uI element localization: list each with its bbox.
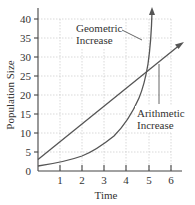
geometric-annotation: Geometric Increase xyxy=(73,21,142,48)
y-tick-0: 0 xyxy=(26,165,32,177)
x-tick-3: 3 xyxy=(101,174,107,186)
arithmetic-label-line2: Increase xyxy=(137,119,174,131)
arithmetic-annotation: Arithmetic Increase xyxy=(135,64,185,132)
x-tick-labels: 1 2 3 4 5 6 xyxy=(57,174,174,186)
geometric-label-line2: Increase xyxy=(76,34,113,46)
x-tick-5: 5 xyxy=(146,174,152,186)
x-axis-title: Time xyxy=(95,189,118,201)
y-tick-25: 25 xyxy=(20,70,32,82)
y-tick-labels: 40 35 30 25 20 15 10 5 0 xyxy=(20,13,32,177)
arrowhead-icon xyxy=(149,7,155,15)
y-axis-title: Population Size xyxy=(4,60,16,129)
y-tick-20: 20 xyxy=(20,89,32,101)
arithmetic-label-line1: Arithmetic xyxy=(137,107,185,119)
y-tick-5: 5 xyxy=(26,146,32,158)
x-tick-2: 2 xyxy=(79,174,85,186)
geometric-label-line1: Geometric xyxy=(76,22,123,34)
x-tick-1: 1 xyxy=(57,174,63,186)
x-tick-4: 4 xyxy=(123,174,129,186)
population-growth-chart: 40 35 30 25 20 15 10 5 0 1 2 3 4 5 6 Tim… xyxy=(0,0,195,205)
y-tick-30: 30 xyxy=(20,51,32,63)
y-tick-35: 35 xyxy=(20,32,32,44)
y-tick-10: 10 xyxy=(20,127,32,139)
y-tick-40: 40 xyxy=(20,13,32,25)
y-tick-15: 15 xyxy=(20,108,32,120)
x-tick-6: 6 xyxy=(168,174,174,186)
